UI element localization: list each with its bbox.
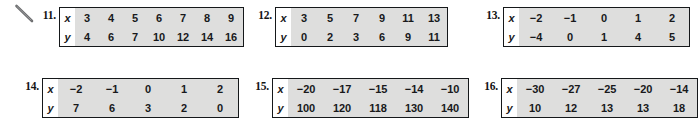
row-label-x: x [276, 8, 292, 28]
cell-x-4: 2 [655, 8, 690, 28]
cell-x-1: −27 [553, 79, 589, 99]
cell-x-2: 0 [130, 79, 166, 99]
cell-x-1: −1 [553, 8, 587, 28]
cell-y-1: 2 [317, 27, 343, 47]
cell-x-3: 6 [147, 8, 171, 28]
exercise-number: 15. [252, 78, 269, 93]
cell-y-5: 14 [195, 27, 219, 47]
exercise-number: 11. [40, 7, 56, 22]
cell-x-5: 13 [421, 8, 448, 28]
cell-x-0: −20 [288, 79, 324, 99]
cell-y-2: 3 [130, 98, 166, 118]
table-row-y: y 10 12 13 13 18 [502, 98, 698, 118]
table-row-x: x 3 5 7 9 11 13 [276, 8, 448, 28]
table-row-y: y 100 120 118 130 140 [273, 98, 469, 118]
exercise-15: 15. x −20 −17 −15 −14 −10 y 100 120 118 … [252, 78, 469, 118]
row-label-x: x [273, 79, 289, 99]
cell-x-0: −2 [58, 79, 94, 99]
xy-table: x 3 5 7 9 11 13 y 0 2 3 6 9 11 [275, 7, 448, 47]
cell-x-0: 3 [75, 8, 99, 28]
cell-x-2: 7 [343, 8, 369, 28]
cell-x-3: 1 [621, 8, 655, 28]
cell-x-4: 2 [202, 79, 239, 99]
row-label-y: y [502, 98, 518, 118]
table-row-y: y 4 6 7 10 12 14 16 [60, 27, 244, 47]
xy-table: x −20 −17 −15 −14 −10 y 100 120 118 130 … [272, 78, 469, 118]
row-label-y: y [60, 27, 76, 47]
cell-x-3: 1 [166, 79, 202, 99]
cell-y-4: 12 [171, 27, 195, 47]
table-row-y: y 7 6 3 2 0 [43, 98, 239, 118]
cell-x-2: 5 [123, 8, 147, 28]
cell-y-0: 7 [58, 98, 94, 118]
xy-table: x −2 −1 0 1 2 y 7 6 3 2 0 [42, 78, 239, 118]
exercise-number: 16. [481, 78, 498, 93]
cell-x-5: 8 [195, 8, 219, 28]
exercise-16: 16. x −30 −27 −25 −20 −14 y 10 12 13 13 … [481, 78, 698, 118]
cell-y-4: 5 [655, 27, 690, 47]
row-label-y: y [504, 27, 520, 47]
cell-y-2: 7 [123, 27, 147, 47]
cell-y-3: 2 [166, 98, 202, 118]
cell-y-2: 13 [589, 98, 625, 118]
cell-y-4: 0 [202, 98, 239, 118]
cell-y-2: 118 [360, 98, 396, 118]
table-row-x: x −2 −1 0 1 2 [504, 8, 690, 28]
cell-y-4: 9 [395, 27, 421, 47]
cell-y-0: 10 [517, 98, 553, 118]
cell-x-1: 5 [317, 8, 343, 28]
pencil-stroke-mark [14, 4, 40, 24]
cell-x-3: 9 [369, 8, 395, 28]
cell-y-5: 11 [421, 27, 448, 47]
cell-y-1: 0 [553, 27, 587, 47]
cell-y-4: 140 [432, 98, 469, 118]
cell-x-4: −10 [432, 79, 469, 99]
cell-x-4: 7 [171, 8, 195, 28]
table-row-y: y 0 2 3 6 9 11 [276, 27, 448, 47]
cell-x-0: −2 [519, 8, 553, 28]
exercise-12: 12. x 3 5 7 9 11 13 y 0 2 3 6 9 11 [255, 7, 448, 47]
cell-y-3: 6 [369, 27, 395, 47]
cell-y-6: 16 [219, 27, 244, 47]
table-row-x: x −2 −1 0 1 2 [43, 79, 239, 99]
xy-table: x −2 −1 0 1 2 y −4 0 1 4 5 [503, 7, 690, 47]
cell-y-1: 120 [324, 98, 360, 118]
cell-y-2: 3 [343, 27, 369, 47]
cell-y-3: 130 [396, 98, 432, 118]
exercise-number: 12. [255, 7, 272, 22]
row-label-x: x [502, 79, 518, 99]
table-row-x: x 3 4 5 6 7 8 9 [60, 8, 244, 28]
cell-x-6: 9 [219, 8, 244, 28]
row-label-x: x [43, 79, 59, 99]
cell-y-0: 4 [75, 27, 99, 47]
cell-x-1: −1 [94, 79, 130, 99]
cell-y-0: 100 [288, 98, 324, 118]
cell-x-0: −30 [517, 79, 553, 99]
cell-x-2: 0 [587, 8, 621, 28]
cell-y-1: 6 [99, 27, 123, 47]
exercise-number: 13. [483, 7, 500, 22]
cell-x-1: 4 [99, 8, 123, 28]
cell-y-3: 4 [621, 27, 655, 47]
cell-x-4: 11 [395, 8, 421, 28]
cell-x-3: −14 [396, 79, 432, 99]
cell-x-4: −14 [661, 79, 698, 99]
cell-x-0: 3 [291, 8, 317, 28]
row-label-x: x [60, 8, 76, 28]
cell-y-1: 6 [94, 98, 130, 118]
cell-y-0: 0 [291, 27, 317, 47]
table-row-x: x −20 −17 −15 −14 −10 [273, 79, 469, 99]
cell-y-2: 1 [587, 27, 621, 47]
row-label-y: y [276, 27, 292, 47]
exercise-11: 11. x 3 4 5 6 7 8 9 y 4 6 7 10 12 14 16 [40, 7, 244, 47]
xy-table: x −30 −27 −25 −20 −14 y 10 12 13 13 18 [501, 78, 698, 118]
row-label-y: y [273, 98, 289, 118]
cell-x-2: −15 [360, 79, 396, 99]
exercise-number: 14. [22, 78, 39, 93]
cell-y-3: 10 [147, 27, 171, 47]
row-label-x: x [504, 8, 520, 28]
cell-y-3: 13 [625, 98, 661, 118]
cell-x-1: −17 [324, 79, 360, 99]
xy-table: x 3 4 5 6 7 8 9 y 4 6 7 10 12 14 16 [59, 7, 244, 47]
cell-y-4: 18 [661, 98, 698, 118]
